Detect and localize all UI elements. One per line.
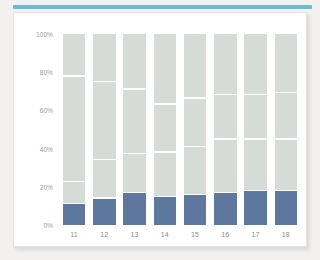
bar-segment-11-3 (63, 77, 85, 181)
bar-segment-16-3 (214, 95, 236, 138)
y-axis-tick-40pct: 40% (40, 145, 53, 152)
bar-slot-15: 15 (180, 34, 210, 225)
chart-plot-area: 0%20%40%60%80%100% 1112131415161718 (59, 34, 301, 225)
bar-segment-17-2 (244, 140, 266, 190)
bar-slot-12: 12 (89, 34, 119, 225)
x-axis-tick-17: 17 (241, 231, 271, 238)
x-axis-tick-14: 14 (150, 231, 180, 238)
top-accent-bar (13, 5, 312, 9)
bar-segment-13-1 (123, 193, 145, 225)
x-axis-tick-15: 15 (180, 231, 210, 238)
bar-segment-14-2 (154, 153, 176, 196)
bar-segment-16-1 (214, 193, 236, 225)
x-axis-tick-11: 11 (59, 231, 89, 238)
bar-segment-11-1 (63, 204, 85, 225)
stacked-bar-12[interactable] (93, 34, 115, 225)
bar-segment-17-1 (244, 191, 266, 225)
x-axis-tick-16: 16 (210, 231, 240, 238)
y-axis-tick-60pct: 60% (40, 107, 53, 114)
bar-segment-13-2 (123, 154, 145, 191)
bar-segment-18-4 (275, 34, 297, 92)
bar-segment-14-1 (154, 197, 176, 225)
bar-segment-15-3 (184, 99, 206, 146)
bar-segment-13-4 (123, 34, 145, 88)
stacked-bar-13[interactable] (123, 34, 145, 225)
chart-card: 0%20%40%60%80%100% 1112131415161718 (13, 12, 307, 247)
bar-segment-16-4 (214, 34, 236, 94)
bar-segment-12-4 (93, 34, 115, 81)
bar-slot-17: 17 (241, 34, 271, 225)
y-axis-tick-20pct: 20% (40, 183, 53, 190)
bar-slot-14: 14 (150, 34, 180, 225)
bar-segment-12-1 (93, 199, 115, 225)
bar-segment-15-2 (184, 147, 206, 194)
x-axis-tick-12: 12 (89, 231, 119, 238)
bar-segment-14-3 (154, 105, 176, 152)
stacked-bar-17[interactable] (244, 34, 266, 225)
bar-segment-18-3 (275, 93, 297, 138)
bar-segment-18-1 (275, 191, 297, 225)
bar-slot-16: 16 (210, 34, 240, 225)
bar-segment-14-4 (154, 34, 176, 103)
stacked-bar-18[interactable] (275, 34, 297, 225)
bar-segment-15-1 (184, 195, 206, 225)
bar-segment-18-2 (275, 140, 297, 190)
x-axis-tick-13: 13 (120, 231, 150, 238)
bar-segment-16-2 (214, 140, 236, 192)
x-axis-tick-18: 18 (271, 231, 301, 238)
stacked-bar-11[interactable] (63, 34, 85, 225)
bar-segment-12-3 (93, 82, 115, 158)
stacked-bar-16[interactable] (214, 34, 236, 225)
y-axis-tick-0pct: 0% (43, 222, 53, 229)
stacked-bar-15[interactable] (184, 34, 206, 225)
bar-segment-17-3 (244, 95, 266, 138)
bar-slot-11: 11 (59, 34, 89, 225)
y-axis-tick-80pct: 80% (40, 69, 53, 76)
bar-segment-13-3 (123, 90, 145, 153)
bar-segment-12-2 (93, 160, 115, 197)
bar-slot-13: 13 (120, 34, 150, 225)
bar-slot-18: 18 (271, 34, 301, 225)
bar-segment-11-4 (63, 34, 85, 75)
y-axis-tick-100pct: 100% (36, 31, 53, 38)
bar-segment-11-2 (63, 182, 85, 203)
stacked-bar-14[interactable] (154, 34, 176, 225)
bar-segment-17-4 (244, 34, 266, 94)
bar-segment-15-4 (184, 34, 206, 97)
